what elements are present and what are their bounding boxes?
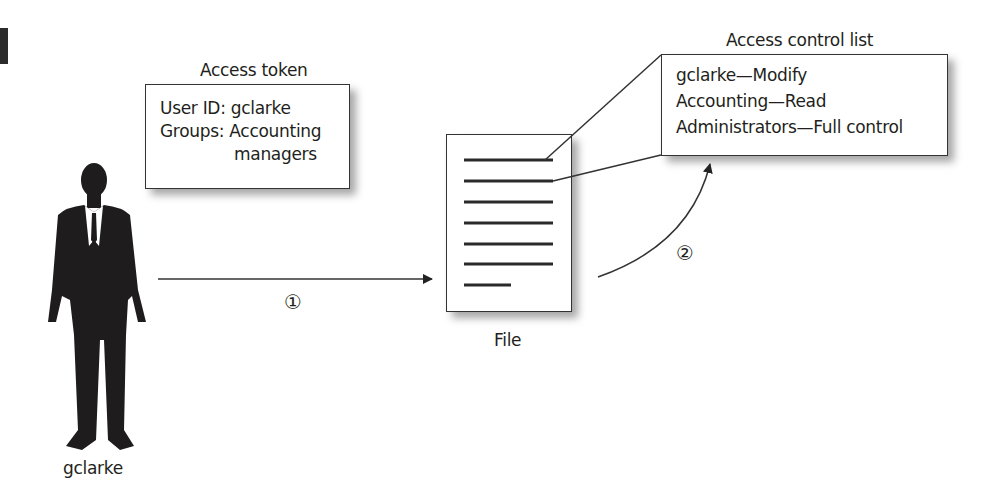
person-silhouette-icon: [48, 163, 146, 450]
diagram-graphics: [0, 0, 1001, 486]
file-text-lines: [464, 160, 553, 285]
step-2-arrow: [598, 164, 710, 277]
acl-callout-lines: [545, 55, 661, 181]
